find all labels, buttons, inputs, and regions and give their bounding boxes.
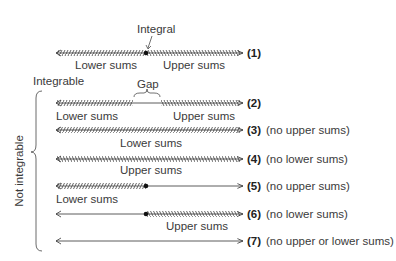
row-7-line bbox=[56, 238, 243, 244]
row-3-note: (no upper sums) bbox=[266, 124, 350, 136]
row-7-number: (7) bbox=[247, 235, 261, 247]
row-2-number: (2) bbox=[247, 97, 261, 109]
row-2-lower-label: Lower sums bbox=[56, 110, 118, 122]
row-4-number: (4) bbox=[247, 153, 261, 165]
row-3-number: (3) bbox=[247, 124, 261, 136]
row-1-lower-label: Lower sums bbox=[75, 59, 137, 71]
row-3-line bbox=[56, 127, 243, 133]
not-integrable-brace bbox=[31, 91, 42, 251]
row-5-line bbox=[56, 183, 243, 189]
row-6-line bbox=[56, 211, 243, 217]
row-2-line bbox=[56, 89, 243, 106]
row-6-note: (no lower sums) bbox=[266, 208, 348, 220]
row-5-lower-label: Lower sums bbox=[56, 193, 118, 205]
not-integrable-label: Not integrable bbox=[13, 129, 25, 213]
row-1-line bbox=[56, 36, 243, 56]
integral-dot bbox=[144, 51, 149, 56]
row-4-line bbox=[56, 156, 243, 162]
row-3-lower-label: Lower sums bbox=[120, 137, 182, 149]
gap-label: Gap bbox=[137, 78, 159, 90]
row-1-number: (1) bbox=[247, 47, 261, 59]
integral-label: Integral bbox=[137, 23, 175, 35]
row-7-note: (no upper or lower sums) bbox=[266, 235, 394, 247]
row-6-number: (6) bbox=[247, 208, 261, 220]
row-4-note: (no lower sums) bbox=[266, 153, 348, 165]
row-5-note: (no upper sums) bbox=[266, 180, 350, 192]
gap-brace bbox=[134, 89, 160, 97]
integrable-label: Integrable bbox=[33, 75, 84, 87]
row-6-upper-label: Upper sums bbox=[166, 220, 228, 232]
row-4-upper-label: Upper sums bbox=[120, 164, 182, 176]
row-2-upper-label: Upper sums bbox=[173, 110, 235, 122]
row-1-upper-label: Upper sums bbox=[163, 59, 225, 71]
row-5-number: (5) bbox=[247, 180, 261, 192]
